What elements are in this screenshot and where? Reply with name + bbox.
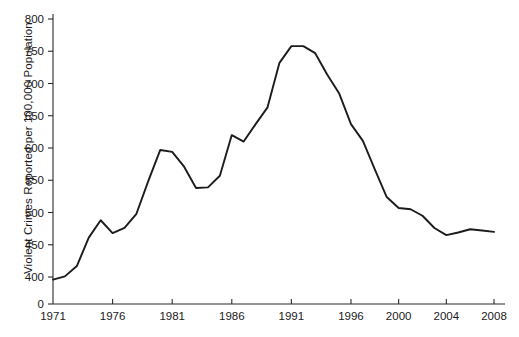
x-axis-tick-label: 2000 xyxy=(386,310,412,322)
y-axis-tick-label: 800 xyxy=(25,13,44,25)
line-chart-plot: 0400450500550600650700750800 19711976198… xyxy=(0,0,519,337)
x-axis-tick-label: 2004 xyxy=(434,310,460,322)
y-axis-tick-group: 0400450500550600650700750800 xyxy=(25,13,53,310)
x-axis-tick-label: 1976 xyxy=(100,310,126,322)
x-axis-tick-label: 1991 xyxy=(279,310,305,322)
y-axis-tick-label: 550 xyxy=(25,174,44,186)
x-axis-tick-group: 197119761981198619911996200020042008 xyxy=(40,299,507,322)
x-axis-tick-label: 1971 xyxy=(40,310,66,322)
y-axis-tick-label: 450 xyxy=(25,239,44,251)
y-axis-tick-label: 400 xyxy=(25,271,44,283)
x-axis-tick-label: 1981 xyxy=(159,310,185,322)
chart-figure: Violent Crimes Reported per 100,000 Popu… xyxy=(0,0,519,337)
y-axis-tick-label: 600 xyxy=(25,142,44,154)
y-axis-tick-label: 650 xyxy=(25,110,44,122)
violent-crime-rate-line xyxy=(53,46,494,279)
y-axis-tick-label: 500 xyxy=(25,207,44,219)
x-axis-tick-label: 1996 xyxy=(338,310,364,322)
x-axis-tick-label: 2008 xyxy=(481,310,507,322)
x-axis-tick-label: 1986 xyxy=(219,310,245,322)
y-axis-tick-label: 0 xyxy=(38,298,44,310)
y-axis-tick-label: 750 xyxy=(25,45,44,57)
y-axis-tick-label: 700 xyxy=(25,78,44,90)
